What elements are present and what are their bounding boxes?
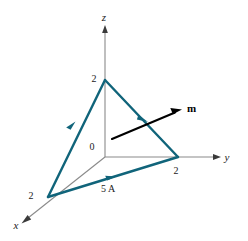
y-tick-label-2: 2 bbox=[174, 165, 179, 176]
origin-label: 0 bbox=[90, 141, 95, 152]
current-magnitude-label: 5 A bbox=[101, 183, 116, 194]
y-axis bbox=[105, 154, 221, 160]
m-vector-line bbox=[112, 113, 175, 140]
y-axis-label: y bbox=[224, 151, 230, 163]
m-vector-label: m bbox=[187, 102, 196, 114]
x-tick-label-2: 2 bbox=[29, 190, 34, 201]
x-axis-line bbox=[28, 157, 105, 218]
axes-group bbox=[22, 25, 222, 224]
z-axis bbox=[102, 25, 108, 157]
y-axis-arrowhead-icon bbox=[213, 154, 221, 160]
z-axis-label: z bbox=[101, 11, 107, 23]
x-axis-label: x bbox=[13, 219, 19, 231]
z-axis-arrowhead-icon bbox=[102, 25, 108, 33]
coordinate-diagram: z y x 0 2 2 2 5 A m bbox=[0, 0, 248, 241]
z-tick-label-2: 2 bbox=[92, 73, 97, 84]
magnetic-moment-vector bbox=[112, 108, 182, 139]
loop-edge-x-to-z-arrowhead-icon bbox=[66, 122, 75, 130]
figure-container: z y x 0 2 2 2 5 A m bbox=[0, 0, 248, 241]
